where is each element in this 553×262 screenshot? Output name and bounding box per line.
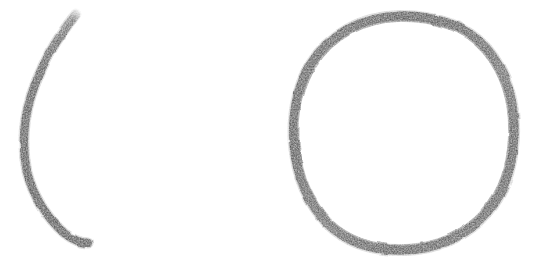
drawing-canvas: A hand-drawn grey arc on the left and a … [0,0,553,262]
drawing-surface: A hand-drawn grey arc on the left and a … [0,0,553,262]
